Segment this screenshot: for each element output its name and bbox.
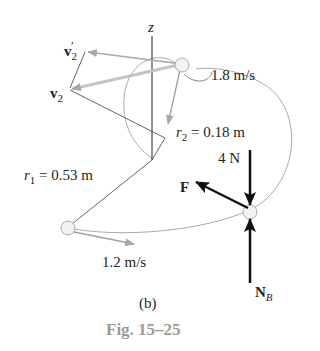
- v2-sub: 2: [58, 92, 64, 104]
- orbit-path-small: [124, 58, 182, 158]
- orbit-path-large: [68, 68, 292, 232]
- v2-arrow: [72, 65, 178, 89]
- r1-value: = 0.53 m: [35, 167, 93, 183]
- z-axis-label: z: [148, 20, 154, 35]
- v2-prime-label: v2′: [64, 44, 80, 59]
- connector-arc: [184, 72, 212, 81]
- speed-top-label: 1.8 m/s: [211, 68, 255, 83]
- radial-arrow: [168, 70, 180, 124]
- v2-prime-mark: ′: [71, 39, 74, 53]
- velocity-1-2-arrow: [74, 232, 134, 244]
- r2-sub: 2: [182, 131, 188, 143]
- ball-top: [175, 58, 189, 72]
- r2-label: r2 = 0.18 m: [176, 125, 245, 140]
- r2-value: = 0.18 m: [187, 124, 245, 140]
- normal-force-label: NB: [255, 285, 273, 300]
- r2-var: r: [176, 124, 182, 140]
- force-F-arrow: [196, 182, 248, 208]
- normal-base: N: [255, 284, 266, 300]
- v2-guide: [70, 90, 165, 138]
- r1-label: r1 = 0.53 m: [24, 168, 93, 183]
- v2-label: v2: [50, 86, 63, 101]
- weight-label: 4 N: [218, 151, 240, 166]
- v2prime-arrow: [88, 52, 182, 64]
- v2-base: v: [50, 85, 58, 101]
- speed-bottom-label: 1.2 m/s: [102, 255, 146, 270]
- part-label: (b): [139, 296, 157, 311]
- figure-caption: Fig. 15–25: [106, 321, 181, 338]
- r2-line: [152, 138, 165, 160]
- normal-sub: B: [266, 291, 273, 303]
- r1-var: r: [24, 167, 30, 183]
- ball-lower-left: [61, 221, 75, 235]
- force-F-label: F: [180, 180, 189, 195]
- r1-sub: 1: [30, 174, 36, 186]
